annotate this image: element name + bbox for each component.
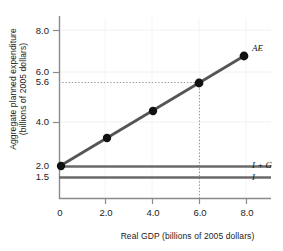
x-tick-label-6: 6.0: [188, 207, 212, 218]
y-tick-label-4: 4.0: [23, 116, 49, 127]
x-axis-title: Real GDP (billions of 2005 dollars): [95, 231, 280, 241]
gridlines: [59, 18, 271, 198]
series-label-I: I: [252, 172, 255, 182]
equilibrium-guides: [59, 82, 200, 198]
y-tick-label-5-6: 5.6: [23, 76, 49, 87]
x-tick-label-2: 2.0: [94, 207, 118, 218]
x-tick-label-0: 0: [48, 207, 72, 218]
series-label-I-plus-G: I + G: [252, 160, 272, 170]
chart-figure: Aggregate planned expenditure (billions …: [0, 0, 283, 251]
series-label-AE: AE: [252, 43, 263, 53]
axis-lines: [59, 16, 271, 199]
x-tick-label-4: 4.0: [141, 207, 165, 218]
y-tick-label-1-5: 1.5: [23, 171, 49, 182]
y-tick-marks: [53, 31, 59, 123]
y-axis-title: Aggregate planned expenditure (billions …: [8, 14, 28, 164]
y-tick-label-2: 2.0: [23, 160, 49, 171]
y-tick-label-8: 8.0: [23, 25, 49, 36]
x-tick-label-8: 8.0: [235, 207, 259, 218]
